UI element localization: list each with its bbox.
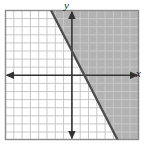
x-axis-label: x [136,68,141,79]
coordinate-plane-graph [0,0,147,145]
y-axis-label: y [64,0,69,11]
linear-inequality-figure: y x [0,0,147,145]
